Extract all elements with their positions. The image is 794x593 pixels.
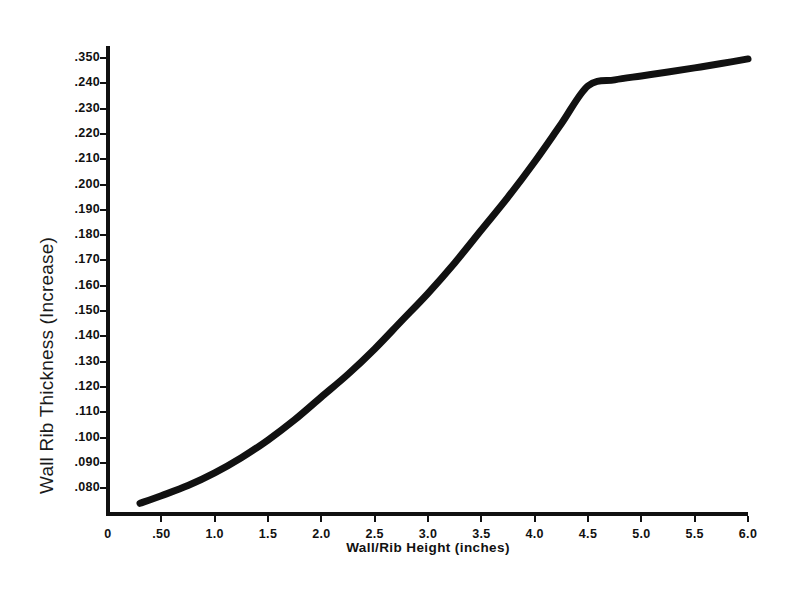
- y-axis-tick-label: .080: [44, 480, 100, 496]
- y-axis-tick-label-text: .170: [52, 252, 100, 266]
- y-axis-tick-label: .090: [44, 455, 100, 471]
- y-axis-tick-label: .170: [44, 252, 100, 268]
- x-axis-tick-label-text: 3.0: [419, 527, 437, 541]
- y-axis-tick-label-text: .350: [52, 50, 100, 64]
- y-axis-tick: [100, 335, 107, 337]
- x-axis-tick-label-text: 2.5: [366, 527, 384, 541]
- y-axis-tick-label: .180: [44, 227, 100, 243]
- y-axis-tick: [100, 411, 107, 413]
- y-axis-tick: [100, 158, 107, 160]
- x-axis-tick-label-text: 0: [104, 527, 111, 541]
- y-axis-tick-label-text: .110: [52, 404, 100, 418]
- y-axis-tick-label: .200: [44, 177, 100, 193]
- x-axis-tick-label-text: 3.5: [472, 527, 490, 541]
- x-axis-tick-label-text: 5.0: [632, 527, 650, 541]
- y-axis-tick-label-text: .180: [52, 227, 100, 241]
- y-axis-tick: [100, 57, 107, 59]
- y-axis-tick: [100, 234, 107, 236]
- x-axis-tick: [267, 516, 269, 522]
- x-axis-tick-label-text: .50: [152, 527, 170, 541]
- y-axis-tick-label: .120: [44, 379, 100, 395]
- y-axis-tick-label: .160: [44, 278, 100, 294]
- y-axis-tick-label-text: .240: [52, 75, 100, 89]
- x-axis-tick: [694, 516, 696, 522]
- x-axis-tick: [747, 516, 749, 522]
- y-axis-tick: [100, 310, 107, 312]
- y-axis-tick: [100, 133, 107, 135]
- y-axis-tick: [100, 462, 107, 464]
- y-axis-tick-label-text: .120: [52, 379, 100, 393]
- y-axis-tick-label-text: .100: [52, 430, 100, 444]
- x-axis-tick-label-text: 1.5: [259, 527, 277, 541]
- x-axis-tick-label-text: 4.0: [526, 527, 544, 541]
- y-axis-tick-label: .240: [44, 75, 100, 91]
- y-axis-tick: [100, 361, 107, 363]
- y-axis-tick-label-text: .220: [52, 126, 100, 140]
- x-axis-tick: [320, 516, 322, 522]
- y-axis-tick: [100, 285, 107, 287]
- x-axis-tick: [374, 516, 376, 522]
- x-axis-tick-label-text: 1.0: [206, 527, 224, 541]
- x-axis-tick: [587, 516, 589, 522]
- y-axis-tick-label-text: .230: [52, 101, 100, 115]
- y-axis-tick-label: .140: [44, 328, 100, 344]
- y-axis-tick-label: .210: [44, 151, 100, 167]
- y-axis-tick-label-text: .140: [52, 328, 100, 342]
- y-axis-tick: [100, 487, 107, 489]
- x-axis-tick: [534, 516, 536, 522]
- y-axis-tick-label-text: .130: [52, 354, 100, 368]
- y-axis-tick-label: .110: [44, 404, 100, 420]
- y-axis-tick: [100, 82, 107, 84]
- y-axis-tick: [100, 209, 107, 211]
- y-axis-tick-label-text: .080: [52, 480, 100, 494]
- y-axis-tick: [100, 184, 107, 186]
- y-axis-line: [106, 46, 110, 516]
- x-axis-tick-label-text: 2.0: [312, 527, 330, 541]
- y-axis-tick-label-text: .200: [52, 177, 100, 191]
- x-axis-tick: [640, 516, 642, 522]
- y-axis-tick-label-text: .210: [52, 151, 100, 165]
- y-axis-tick: [100, 108, 107, 110]
- y-axis-tick-label-text: .090: [52, 455, 100, 469]
- x-axis-tick-label-text: 4.5: [579, 527, 597, 541]
- y-axis-tick: [100, 259, 107, 261]
- y-axis-tick-label: .130: [44, 354, 100, 370]
- x-axis-tick: [427, 516, 429, 522]
- x-axis-tick-label-text: 5.5: [686, 527, 704, 541]
- x-axis-tick: [160, 516, 162, 522]
- x-axis-tick-label-text: 6.0: [739, 527, 757, 541]
- y-axis-tick-label-text: .190: [52, 202, 100, 216]
- y-axis-tick-label-text: .160: [52, 278, 100, 292]
- y-axis-tick-label: .150: [44, 303, 100, 319]
- data-curve: [0, 0, 794, 593]
- y-axis-tick-label: .350: [44, 50, 100, 66]
- y-axis-tick-label: .100: [44, 430, 100, 446]
- y-axis-tick-label: .220: [44, 126, 100, 142]
- y-axis-tick: [100, 437, 107, 439]
- y-axis-tick-label: .190: [44, 202, 100, 218]
- x-axis-title: Wall/Rib Height (inches): [108, 540, 748, 555]
- y-axis-tick-label: .230: [44, 101, 100, 117]
- x-axis-tick: [480, 516, 482, 522]
- y-axis-tick-label-text: .150: [52, 303, 100, 317]
- x-axis-tick: [214, 516, 216, 522]
- chart-figure: Wall Rib Thickness (Increase) .350.240.2…: [0, 0, 794, 593]
- y-axis-tick: [100, 386, 107, 388]
